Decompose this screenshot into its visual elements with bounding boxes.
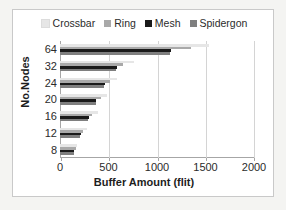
legend-swatch-icon <box>41 19 50 28</box>
chart-panel: CrossbarRingMeshSpidergon No.Nodes 64322… <box>12 9 274 197</box>
legend-label: Ring <box>114 18 136 29</box>
y-axis-tick-label: 8 <box>29 142 57 156</box>
bar-group <box>60 126 254 140</box>
x-axis-tick-labels: 0500100015002000 <box>60 161 254 175</box>
bar-group <box>60 59 254 73</box>
x-axis-tick-label: 1000 <box>145 161 169 173</box>
x-axis-tick-label: 0 <box>57 161 63 173</box>
x-axis-tick-label: 2000 <box>242 161 266 173</box>
bar-group <box>60 142 254 156</box>
legend-label: Spidergon <box>200 18 248 29</box>
legend-label: Crossbar <box>53 18 96 29</box>
gridline <box>254 41 255 158</box>
y-axis-tick-label: 12 <box>29 126 57 140</box>
bar <box>60 119 88 122</box>
legend-swatch-icon <box>145 20 152 27</box>
bar-group <box>60 76 254 90</box>
y-axis-tick-label: 20 <box>29 92 57 106</box>
legend-item[interactable]: Spidergon <box>190 18 248 29</box>
chart-page: CrossbarRingMeshSpidergon No.Nodes 64322… <box>0 0 286 210</box>
y-axis-tick-labels: 6432242016128 <box>29 41 57 158</box>
bar <box>60 85 104 88</box>
bar <box>60 152 74 155</box>
bar <box>60 135 80 138</box>
y-axis-tick-label: 32 <box>29 59 57 73</box>
legend-label: Mesh <box>155 18 181 29</box>
y-axis-tick-label: 16 <box>29 109 57 123</box>
legend-item[interactable]: Mesh <box>145 18 181 29</box>
bar-group <box>60 109 254 123</box>
bar-groups <box>60 41 254 158</box>
legend-swatch-icon <box>190 20 197 27</box>
bar <box>60 69 116 72</box>
y-axis-tick-label: 64 <box>29 42 57 56</box>
bar <box>60 102 96 105</box>
x-axis-title: Buffer Amount (flit) <box>13 176 275 188</box>
bar <box>60 52 170 55</box>
legend-swatch-icon <box>104 20 111 27</box>
bar-group <box>60 42 254 56</box>
y-axis-tick-label: 24 <box>29 76 57 90</box>
chart-legend: CrossbarRingMeshSpidergon <box>13 18 275 29</box>
plot-wrapper <box>60 41 254 158</box>
bar-group <box>60 92 254 106</box>
x-axis-tick-label: 1500 <box>193 161 217 173</box>
legend-item[interactable]: Ring <box>104 18 136 29</box>
legend-item[interactable]: Crossbar <box>41 18 96 29</box>
x-axis-tick-label: 500 <box>99 161 117 173</box>
